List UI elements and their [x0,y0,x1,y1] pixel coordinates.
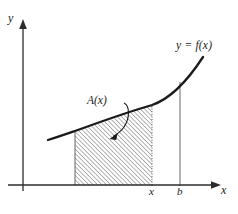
tick-label-b: b [177,186,183,197]
area-function-label: A(x) [87,95,107,107]
figure-container: y x y = f(x) A(x) x b [0,0,238,214]
x-axis-arrow-icon [211,181,221,189]
y-axis-arrow-icon [19,19,27,29]
function-label: y = f(x) [176,40,212,52]
tick-label-x: x [149,186,154,197]
y-axis-label: y [8,12,13,24]
figure-canvas [0,0,238,214]
x-axis-label: x [221,184,226,196]
